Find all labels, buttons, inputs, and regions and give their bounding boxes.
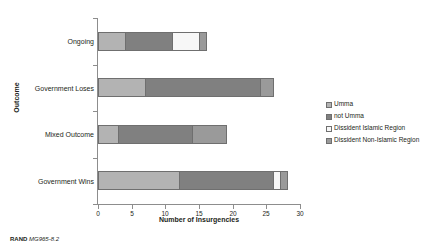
bar-segment [98, 125, 119, 144]
x-axis-title: Number of Insurgencies [98, 216, 300, 223]
bar-segment [280, 171, 288, 190]
bar-row [0, 171, 447, 190]
legend-swatch-icon [326, 126, 332, 132]
y-tick-mark [93, 158, 97, 159]
credit-figure-id: MG965-8.2 [29, 236, 59, 242]
y-tick-mark [93, 111, 97, 112]
legend-item: Dissident Non-Islamic Region [326, 135, 444, 146]
bar-segment [199, 32, 207, 51]
x-tick-mark [300, 205, 301, 209]
bar-segment [98, 78, 146, 97]
credit-org: RAND [10, 236, 27, 242]
y-tick-mark [93, 18, 97, 19]
bar-row [0, 32, 447, 51]
legend-label: Dissident Non-Islamic Region [334, 137, 419, 144]
bar-segment [118, 125, 193, 144]
bar-segment [179, 171, 274, 190]
x-tick-mark [233, 205, 234, 209]
legend-item: Dissident Islamic Region [326, 123, 444, 134]
y-tick-mark [93, 204, 97, 205]
legend-swatch-icon [326, 102, 332, 108]
x-tick-mark [165, 205, 166, 209]
y-tick-mark [93, 65, 97, 66]
bar-segment [125, 32, 173, 51]
legend-label: Umma [334, 101, 353, 108]
legend-label: Dissident Islamic Region [334, 125, 405, 132]
x-tick-mark [132, 205, 133, 209]
legend-item: not Umma [326, 111, 444, 122]
chart-legend: Ummanot UmmaDissident Islamic RegionDiss… [326, 99, 444, 147]
bar-segment [172, 32, 200, 51]
y-axis-title: Outcome [13, 82, 20, 112]
bar-row [0, 78, 447, 97]
legend-swatch-icon [326, 114, 332, 120]
bar-segment [98, 171, 180, 190]
bar-segment [192, 125, 227, 144]
legend-item: Umma [326, 99, 444, 110]
x-tick-mark [199, 205, 200, 209]
chart-figure: 051015202530 Government WinsMixed Outcom… [0, 0, 447, 251]
bar-segment [260, 78, 274, 97]
bar-segment [98, 32, 126, 51]
bar-segment [145, 78, 260, 97]
figure-credit: RAND MG965-8.2 [10, 236, 59, 242]
legend-label: not Umma [334, 113, 364, 120]
x-tick-mark [98, 205, 99, 209]
legend-swatch-icon [326, 138, 332, 144]
x-tick-mark [266, 205, 267, 209]
